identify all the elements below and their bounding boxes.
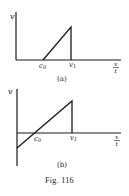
x-axis-label-num: x — [115, 133, 119, 140]
x-axis-label-den: t — [116, 140, 119, 147]
x-axis-label-den: t — [115, 67, 118, 74]
tick-v1: v1 — [70, 134, 77, 142]
tick-v1: v1 — [69, 61, 76, 69]
tick-c0: c0 — [34, 135, 42, 143]
figure-116: v c0 v1 x t (a) v c0 v1 x t (b) Fig. 116 — [0, 0, 129, 196]
panel-label-b: (b) — [57, 161, 67, 169]
tick-c0: c0 — [39, 62, 47, 70]
velocity-profile — [43, 27, 71, 60]
y-axis-label: v — [8, 87, 13, 96]
panel-b: v c0 v1 x t (b) — [8, 87, 121, 169]
panel-label-a: (a) — [57, 75, 67, 83]
velocity-profile — [17, 101, 72, 148]
panel-a: v c0 v1 x t (a) — [10, 12, 121, 83]
y-axis-label: v — [10, 12, 15, 21]
x-axis-label-num: x — [114, 60, 118, 67]
figure-caption: Fig. 116 — [45, 176, 74, 185]
